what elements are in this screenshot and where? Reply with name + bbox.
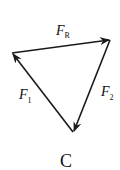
option-label: C xyxy=(60,151,72,170)
label-f2: F2 xyxy=(100,84,114,102)
label-f1: F1 xyxy=(18,87,32,105)
label-fr: FR xyxy=(55,23,71,40)
force-triangle-diagram: FR F1 F2 C xyxy=(0,0,120,170)
vector-fr-arrow xyxy=(12,40,109,53)
